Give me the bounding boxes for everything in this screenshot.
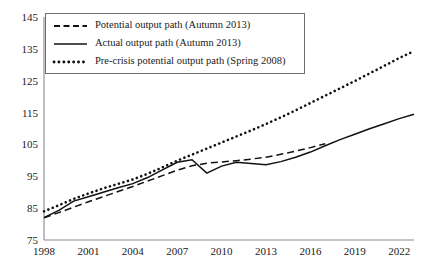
x-tick-label: 1998 — [33, 245, 56, 257]
y-tick-label: 135 — [22, 43, 39, 55]
y-tick-label: 125 — [22, 75, 39, 87]
y-tick-label: 115 — [22, 107, 39, 119]
x-tick-label: 2016 — [299, 245, 322, 257]
legend-label: Pre-crisis potential output path (Spring… — [95, 55, 286, 67]
x-tick-label: 2019 — [344, 245, 367, 257]
x-tick-label: 2007 — [166, 245, 189, 257]
chart-figure: 758595105115125135145 199820012004200720… — [0, 0, 432, 276]
x-tick-label: 2004 — [122, 245, 145, 257]
x-axis-tick-labels: 199820012004200720102013201620192022 — [33, 245, 410, 257]
chart-legend: Potential output path (Autumn 2013)Actua… — [46, 14, 305, 74]
legend-label: Potential output path (Autumn 2013) — [95, 19, 251, 31]
y-tick-label: 145 — [22, 11, 39, 23]
x-tick-label: 2022 — [388, 245, 410, 257]
y-tick-label: 105 — [22, 138, 39, 150]
x-tick-label: 2010 — [211, 245, 234, 257]
x-tick-label: 2013 — [255, 245, 278, 257]
y-tick-label: 85 — [27, 202, 39, 214]
legend-label: Actual output path (Autumn 2013) — [95, 37, 241, 49]
y-tick-label: 95 — [27, 170, 39, 182]
x-tick-label: 2001 — [77, 245, 99, 257]
line-chart: 758595105115125135145 199820012004200720… — [0, 0, 432, 276]
